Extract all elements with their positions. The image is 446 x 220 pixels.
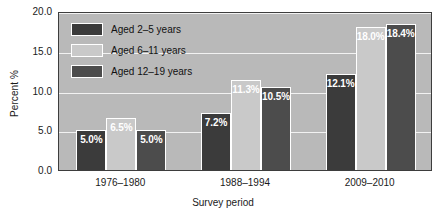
legend-item: Aged 2–5 years [71,20,192,39]
bar-value-label: 18.0% [357,31,385,42]
x-tick-label: 1988–1994 [220,177,270,188]
x-tick-label: 2009–2010 [345,177,395,188]
bar-value-label: 18.4% [387,28,415,39]
legend-label: Aged 6–11 years [111,45,186,56]
legend-label: Aged 2–5 years [111,24,181,35]
bar-value-label: 5.0% [80,134,102,145]
bar: 12.1% [326,74,356,170]
y-tick-10.0: 10.0 [12,87,52,97]
legend-swatch-icon [71,44,103,57]
y-axis-tick-labels: 0.05.010.015.020.0 [8,0,52,220]
x-tick-label: 1976–1980 [95,177,145,188]
bar: 18.0% [356,27,386,170]
bar: 5.0% [136,130,166,170]
y-tick-0.0: 0.0 [12,166,52,176]
legend: Aged 2–5 yearsAged 6–11 yearsAged 12–19 … [71,20,192,83]
bar: 11.3% [231,80,261,170]
bar: 5.0% [76,130,106,170]
bar: 10.5% [261,87,291,170]
bar-chart: Percent % 0.05.010.015.020.0 5.0%6.5%5.0… [0,0,446,220]
plot-area: 5.0%6.5%5.0%7.2%11.3%10.5%12.1%18.0%18.4… [58,12,432,171]
y-tick-15.0: 15.0 [12,47,52,57]
bar: 7.2% [201,113,231,170]
bar: 6.5% [106,118,136,170]
y-tick-5.0: 5.0 [12,126,52,136]
legend-item: Aged 12–19 years [71,62,192,81]
legend-item: Aged 6–11 years [71,41,192,60]
y-tick-20.0: 20.0 [12,7,52,17]
legend-swatch-icon [71,23,103,36]
bar-value-label: 12.1% [327,78,355,89]
bar-value-label: 10.5% [262,91,290,102]
x-axis-title: Survey period [0,197,446,208]
legend-label: Aged 12–19 years [111,66,192,77]
bar-value-label: 5.0% [140,134,162,145]
legend-swatch-icon [71,65,103,78]
bar: 18.4% [386,24,416,170]
bar-value-label: 6.5% [110,122,132,133]
bar-value-label: 7.2% [205,117,227,128]
bar-value-label: 11.3% [232,84,259,95]
